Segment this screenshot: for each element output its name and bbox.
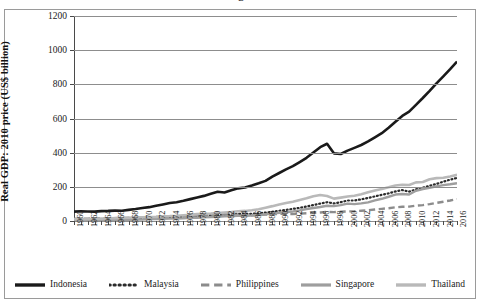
x-tick-label: 1970 — [146, 211, 154, 227]
gridline — [74, 119, 457, 120]
legend-swatch-icon — [301, 280, 331, 289]
x-tick-mark — [389, 221, 390, 225]
x-tick-mark — [115, 221, 116, 225]
x-tick-label: 1992 — [296, 211, 304, 227]
x-tick-label: 1964 — [105, 211, 113, 227]
y-tick-mark — [70, 16, 74, 17]
x-tick-label: 2014 — [447, 211, 455, 227]
x-tick-mark — [129, 221, 130, 225]
gridline — [74, 153, 457, 154]
gridline — [74, 16, 457, 17]
y-tick-mark — [70, 84, 74, 85]
x-tick-label: 1994 — [310, 211, 318, 227]
x-tick-label: 1984 — [241, 211, 249, 227]
x-tick-mark — [101, 221, 102, 225]
x-tick-label: 1998 — [337, 211, 345, 227]
legend-item-indonesia[interactable]: Indonesia — [15, 279, 87, 289]
legend-label: Thailand — [431, 279, 465, 289]
x-tick-label: 2010 — [419, 211, 427, 227]
legend-label: Malaysia — [144, 279, 179, 289]
legend-item-singapore[interactable]: Singapore — [301, 279, 375, 289]
y-tick-mark — [70, 50, 74, 51]
legend-item-thailand[interactable]: Thailand — [396, 279, 465, 289]
legend-swatch-icon — [15, 280, 45, 289]
plot-area — [74, 16, 457, 221]
chart-legend: IndonesiaMalaysiaPhilippinesSingaporeTha… — [4, 274, 476, 294]
x-tick-mark — [211, 221, 212, 225]
x-tick-mark — [74, 221, 75, 225]
x-tick-label: 1986 — [255, 211, 263, 227]
legend-label: Indonesia — [50, 279, 87, 289]
y-tick-mark — [70, 119, 74, 120]
x-tick-label: 2006 — [392, 211, 400, 227]
x-tick-label: 2008 — [405, 211, 413, 227]
y-tick-mark — [70, 153, 74, 154]
x-tick-mark — [348, 221, 349, 225]
x-tick-mark — [443, 221, 444, 225]
x-tick-label: 1980 — [214, 211, 222, 227]
x-tick-mark — [197, 221, 198, 225]
x-tick-mark — [266, 221, 267, 225]
x-tick-mark — [334, 221, 335, 225]
x-tick-label: 1968 — [132, 211, 140, 227]
x-tick-mark — [375, 221, 376, 225]
x-tick-mark — [224, 221, 225, 225]
x-tick-label: 1988 — [269, 211, 277, 227]
gridline — [74, 50, 457, 51]
y-tick-label: 0 — [21, 217, 67, 226]
x-tick-label: 1972 — [159, 211, 167, 227]
y-tick-label: 1200 — [21, 12, 67, 21]
x-tick-label: 2012 — [433, 211, 441, 227]
x-tick-mark — [183, 221, 184, 225]
y-axis-title: Real GDP: 2010 price (US$ billion) — [0, 0, 12, 14]
y-tick-label: 600 — [21, 115, 67, 124]
x-tick-label: 1960 — [77, 211, 85, 227]
x-tick-mark — [142, 221, 143, 225]
y-tick-label: 1000 — [21, 46, 67, 55]
x-tick-label: 1962 — [91, 211, 99, 227]
x-tick-label: 1990 — [282, 211, 290, 227]
x-tick-mark — [416, 221, 417, 225]
x-tick-label: 1996 — [323, 211, 331, 227]
legend-label: Singapore — [336, 279, 375, 289]
x-tick-mark — [170, 221, 171, 225]
legend-item-philippines[interactable]: Philippines — [201, 279, 279, 289]
x-tick-mark — [238, 221, 239, 225]
x-tick-label: 1982 — [228, 211, 236, 227]
chart-figure: g Real GDP: 2010 price (US$ billion) 020… — [0, 0, 482, 306]
x-tick-mark — [252, 221, 253, 225]
x-tick-label: 1976 — [187, 211, 195, 227]
legend-swatch-icon — [109, 280, 139, 289]
x-tick-label: 2016 — [460, 211, 468, 227]
x-tick-mark — [457, 221, 458, 225]
x-tick-mark — [88, 221, 89, 225]
gridline — [74, 187, 457, 188]
legend-item-malaysia[interactable]: Malaysia — [109, 279, 179, 289]
x-tick-mark — [430, 221, 431, 225]
x-tick-mark — [156, 221, 157, 225]
x-tick-label: 1966 — [118, 211, 126, 227]
legend-swatch-icon — [396, 280, 426, 289]
x-tick-label: 2000 — [351, 211, 359, 227]
y-tick-label: 400 — [21, 149, 67, 158]
y-tick-label: 200 — [21, 183, 67, 192]
y-axis-title-text: Real GDP: 2010 price (US$ billion) — [0, 14, 12, 229]
x-tick-label: 1974 — [173, 211, 181, 227]
x-tick-label: 2004 — [378, 211, 386, 227]
x-axis-tick-labels: 1960196219641966196819701972197419761978… — [74, 226, 457, 270]
x-tick-mark — [307, 221, 308, 225]
x-tick-label: 1978 — [200, 211, 208, 227]
y-tick-label: 800 — [21, 80, 67, 89]
gridline — [74, 84, 457, 85]
x-tick-label: 2002 — [364, 211, 372, 227]
y-tick-mark — [70, 187, 74, 188]
legend-label: Philippines — [236, 279, 279, 289]
x-tick-mark — [293, 221, 294, 225]
cropped-title: g — [0, 0, 482, 9]
legend-swatch-icon — [201, 280, 231, 289]
